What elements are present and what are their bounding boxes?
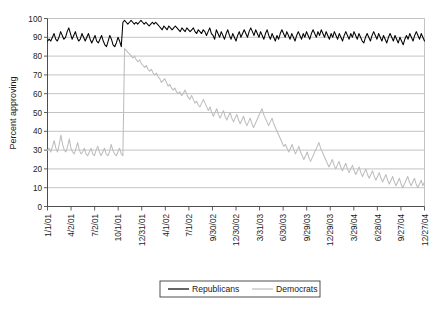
y-tick-label: 100 [28, 15, 42, 24]
y-tick-label: 10 [33, 184, 43, 193]
y-tick-label: 0 [37, 203, 42, 212]
series-line-democrats [48, 49, 425, 188]
y-tick-label: 40 [33, 127, 43, 136]
y-tick-label: 90 [33, 33, 43, 42]
chart-legend: RepublicansDemocrats [160, 281, 320, 297]
x-tick-label: 1/1/01 [44, 214, 53, 237]
x-tick-label: 6/28/04 [374, 214, 383, 242]
x-tick-label: 10/1/01 [114, 214, 123, 242]
y-tick-label: 80 [33, 52, 43, 61]
y-axis-label: Percent approving [8, 76, 18, 149]
x-tick-label: 12/30/02 [232, 214, 241, 246]
x-axis: 1/1/014/2/017/2/0110/1/0112/31/014/1/027… [44, 207, 430, 246]
y-axis: 0102030405060708090100 [28, 15, 424, 212]
x-tick-label: 3/31/03 [256, 214, 265, 242]
x-tick-label: 6/30/03 [279, 214, 288, 242]
legend-label-republicans: Republicans [192, 284, 239, 294]
gridlines [48, 19, 425, 207]
y-tick-label: 70 [33, 71, 43, 80]
x-tick-label: 12/27/04 [421, 214, 430, 246]
data-series [48, 20, 425, 187]
x-tick-label: 7/1/02 [185, 214, 194, 237]
x-tick-label: 12/29/03 [326, 214, 335, 246]
approval-rating-line-chart: 0102030405060708090100 1/1/014/2/017/2/0… [0, 0, 446, 309]
x-tick-label: 7/2/01 [91, 214, 100, 237]
x-tick-label: 9/30/02 [209, 214, 218, 242]
series-line-republicans [48, 20, 425, 46]
y-tick-label: 60 [33, 90, 43, 99]
y-tick-label: 50 [33, 109, 43, 118]
chart-container: 0102030405060708090100 1/1/014/2/017/2/0… [0, 0, 446, 309]
x-tick-label: 3/29/04 [350, 214, 359, 242]
y-tick-label: 30 [33, 146, 43, 155]
y-axis-title: Percent approving [8, 76, 18, 149]
x-tick-label: 9/27/04 [397, 214, 406, 242]
legend-label-democrats: Democrats [276, 284, 318, 294]
x-tick-label: 12/31/01 [138, 214, 147, 246]
x-tick-label: 4/1/02 [162, 214, 171, 237]
x-tick-label: 9/29/03 [303, 214, 312, 242]
y-tick-label: 20 [33, 165, 43, 174]
x-tick-label: 4/2/01 [67, 214, 76, 237]
